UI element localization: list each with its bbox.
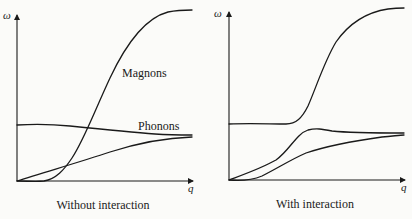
phonons-lower-curve	[17, 137, 192, 181]
x-axis-label: q	[401, 181, 407, 193]
y-axis-label: ω	[3, 9, 11, 21]
magnons-label: Magnons	[122, 66, 167, 80]
caption-with-interaction: With interaction	[276, 197, 354, 211]
x-axis-label: q	[188, 182, 194, 194]
middle-branch-curve	[229, 129, 404, 180]
panel-with-interaction: ω q With interaction	[214, 7, 407, 211]
lower-branch-curve	[229, 135, 404, 181]
phonons-label: Phonons	[138, 119, 180, 133]
dispersion-diagram: ω q Magnons Phonons Without interaction …	[0, 0, 412, 219]
caption-without-interaction: Without interaction	[56, 198, 149, 212]
magnons-curve	[17, 10, 192, 181]
y-axis-label: ω	[214, 7, 222, 19]
upper-branch-curve	[229, 8, 404, 124]
panel-without-interaction: ω q Magnons Phonons Without interaction	[3, 9, 194, 212]
